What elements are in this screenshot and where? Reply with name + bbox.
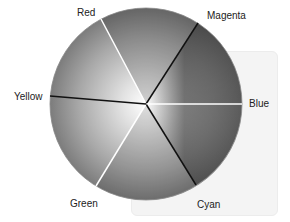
label-yellow: Yellow bbox=[14, 91, 43, 102]
label-cyan: Cyan bbox=[197, 199, 220, 210]
label-red: Red bbox=[77, 7, 95, 18]
label-green: Green bbox=[70, 198, 98, 209]
color-wheel bbox=[0, 0, 290, 222]
label-magenta: Magenta bbox=[207, 10, 246, 21]
label-blue: Blue bbox=[249, 98, 269, 109]
